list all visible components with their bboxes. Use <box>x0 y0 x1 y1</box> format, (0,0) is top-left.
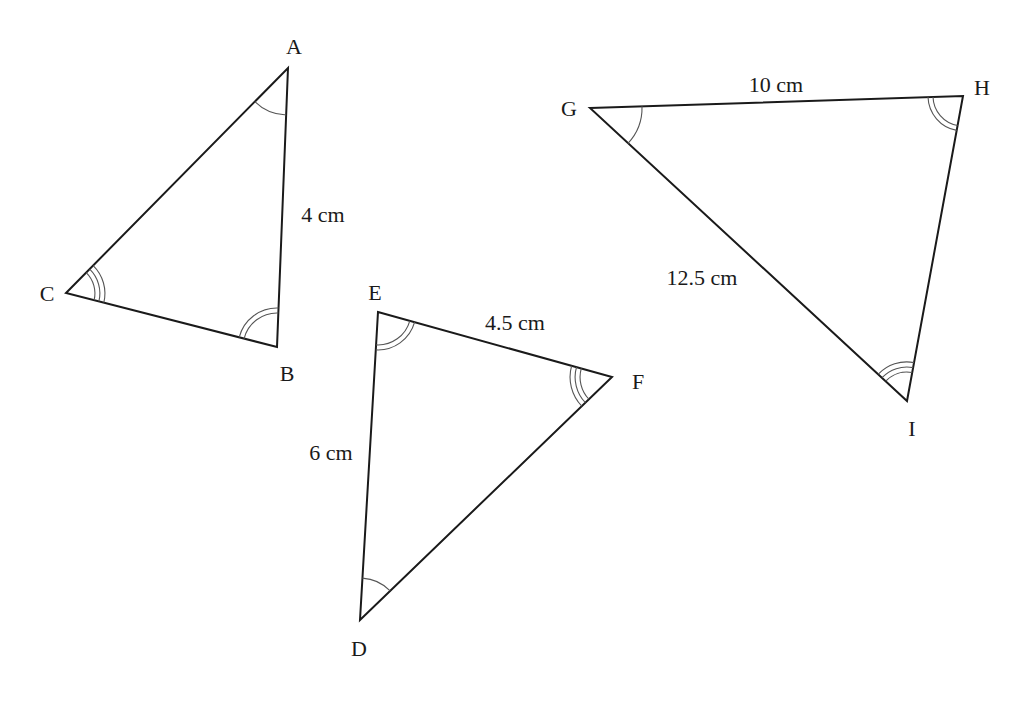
triangle-abc-outline <box>66 68 288 347</box>
angle-b-marker <box>239 308 278 339</box>
vertex-label-b: B <box>280 361 295 386</box>
side-label-gh: 10 cm <box>749 72 803 97</box>
angle-e-marker <box>376 321 415 350</box>
side-label-gi: 12.5 cm <box>667 265 738 290</box>
triangle-def-outline <box>360 312 612 620</box>
vertex-label-g: G <box>561 96 577 121</box>
vertex-label-h: H <box>974 75 990 100</box>
vertex-label-a: A <box>286 34 302 59</box>
angle-g-marker <box>628 106 642 143</box>
angle-d-marker <box>362 578 390 591</box>
triangle-def: E F D 4.5 cm 6 cm <box>309 280 644 661</box>
triangle-ghi-outline <box>590 96 963 401</box>
triangle-abc: A B C 4 cm <box>40 34 345 386</box>
triangle-ghi: G H I 10 cm 12.5 cm <box>561 72 990 441</box>
angle-a-marker <box>255 102 286 115</box>
side-label-de: 6 cm <box>309 440 352 465</box>
angle-f-marker <box>570 366 589 406</box>
vertex-label-c: C <box>40 281 55 306</box>
vertex-label-f: F <box>632 369 644 394</box>
similar-triangles-diagram: A B C 4 cm E F D 4.5 cm 6 cm <box>0 0 1020 705</box>
side-label-ef: 4.5 cm <box>485 310 545 335</box>
vertex-label-d: D <box>351 636 367 661</box>
angle-h-marker <box>928 97 958 130</box>
angle-c-marker <box>86 266 105 303</box>
vertex-label-i: I <box>908 416 915 441</box>
side-label-ab: 4 cm <box>301 202 344 227</box>
vertex-label-e: E <box>368 280 381 305</box>
